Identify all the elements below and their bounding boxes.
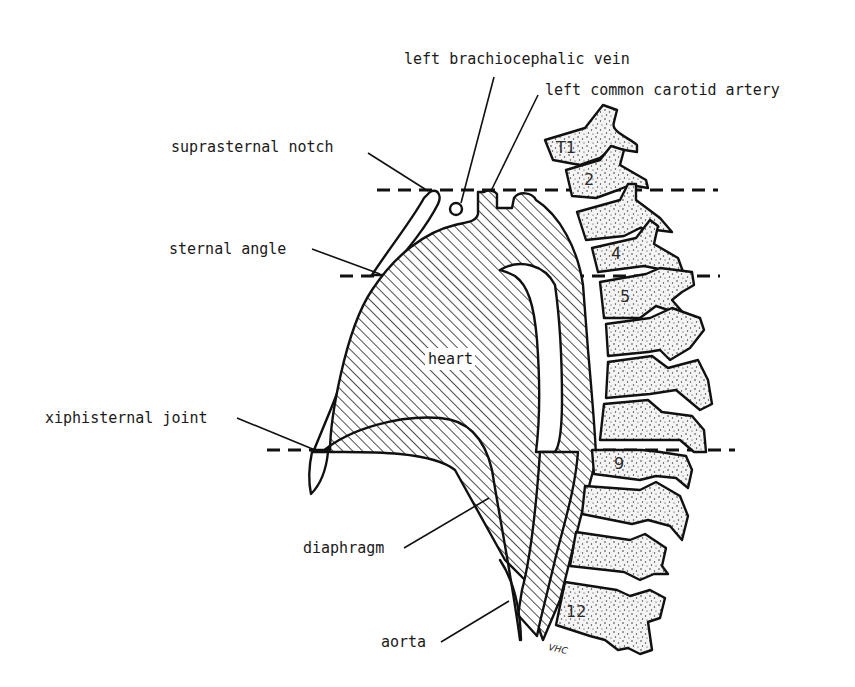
label-suprasternal-notch: suprasternal notch: [171, 138, 334, 156]
leader-suprasternal: [368, 153, 428, 191]
leader-diaphragm: [404, 498, 489, 548]
heart-label: heart: [428, 350, 473, 368]
vertebra-label-t1: T1: [555, 138, 576, 157]
leader-brachiocephalic: [461, 77, 494, 203]
label-left-common-carotid-artery: left common carotid artery: [545, 81, 780, 99]
brachiocephalic-vein-section: [450, 203, 462, 215]
label-aorta: aorta: [381, 633, 426, 651]
leader-aorta: [441, 601, 509, 642]
vertebra-label-9: 9: [614, 454, 624, 473]
heart-and-aorta: [330, 191, 596, 640]
vertebra-t9: [592, 450, 692, 488]
leader-sternal-angle: [312, 249, 380, 274]
leader-carotid: [491, 95, 538, 191]
xiphoid-process: [309, 452, 328, 494]
label-xiphisternal-joint: xiphisternal joint: [45, 409, 208, 427]
vertebra-label-4: 4: [611, 244, 621, 263]
vertebra-label-12: 12: [566, 602, 586, 621]
artist-signature: VHC: [548, 642, 570, 656]
label-sternal-angle: sternal angle: [169, 240, 286, 258]
leader-xiphisternal: [237, 418, 315, 450]
vertebra-t11: [570, 532, 668, 580]
vertebra-t8: [600, 400, 706, 452]
vertebra-t10: [582, 482, 688, 540]
vertebra-label-2: 2: [584, 170, 594, 189]
thorax-diagram: T1 2 4 5 9 12 VHC heart left brachioceph…: [0, 0, 855, 687]
vertebra-label-5: 5: [620, 287, 630, 306]
label-diaphragm: diaphragm: [303, 539, 384, 557]
label-left-brachiocephalic-vein: left brachiocephalic vein: [404, 50, 630, 68]
